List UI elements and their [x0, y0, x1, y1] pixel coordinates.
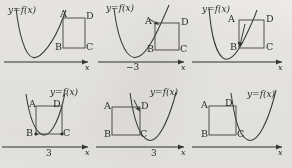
- corner-label-d: D: [266, 14, 274, 24]
- corner-label-a: A: [29, 99, 36, 109]
- x-axis-label: x: [85, 149, 90, 157]
- parabola-curve: [130, 92, 176, 140]
- corner-label-b: B: [55, 42, 62, 52]
- square-shape: [36, 106, 62, 134]
- panel-5: y=f(x) A D B C 3 x: [96, 84, 193, 168]
- corner-label-c: C: [266, 42, 273, 52]
- corner-label-b: B: [104, 129, 111, 139]
- panel-5-graphic: [96, 84, 193, 168]
- corner-label-b: B: [230, 42, 237, 52]
- square-shape: [63, 18, 85, 48]
- function-label: y=f(x): [150, 88, 178, 97]
- corner-label-d: D: [141, 101, 149, 111]
- axis-tick-label: −3: [126, 63, 139, 72]
- corner-label-a: A: [60, 9, 67, 19]
- x-axis-label: x: [278, 149, 283, 157]
- panel-6-graphic: [192, 84, 292, 168]
- panel-1: y=f(x) A D B C x: [0, 0, 97, 84]
- corner-label-b: B: [147, 44, 154, 54]
- panel-2: y=f(x) A D B C −3 x: [96, 0, 193, 84]
- corner-label-c: C: [140, 129, 147, 139]
- function-label: y=f(x): [106, 4, 134, 13]
- pointer-arrowhead: [135, 107, 140, 111]
- corner-label-c: C: [180, 44, 187, 54]
- function-label: y=f(x): [8, 6, 36, 15]
- math-figure-sheet: y=f(x) A D B C x y=f(x) A D B C −3 x: [0, 0, 292, 168]
- corner-label-a: A: [201, 100, 208, 110]
- function-label: y=f(x): [247, 90, 275, 99]
- panel-3: y=f(x) A D B C x: [192, 0, 289, 84]
- corner-label-d: D: [225, 98, 233, 108]
- corner-label-a: A: [228, 14, 235, 24]
- function-label: y=f(x): [202, 5, 230, 14]
- axis-tick-label: 3: [151, 149, 157, 158]
- x-axis-label: x: [181, 149, 186, 157]
- panel-4: y=f(x) A D B C 3 x: [0, 84, 97, 168]
- corner-label-c: C: [86, 42, 93, 52]
- function-label: y=f(x): [50, 88, 78, 97]
- corner-label-b: B: [26, 128, 33, 138]
- intersection-dot-b: [34, 132, 37, 135]
- corner-label-c: C: [63, 128, 70, 138]
- corner-label-a: A: [104, 101, 111, 111]
- panel-6: y=f(x) A D B C x: [192, 84, 289, 168]
- corner-label-d: D: [53, 99, 61, 109]
- x-axis-label: x: [85, 64, 90, 72]
- axis-tick-label: 3: [46, 149, 52, 158]
- corner-label-b: B: [201, 129, 208, 139]
- corner-label-d: D: [181, 17, 189, 27]
- square-shape: [209, 106, 236, 135]
- corner-label-d: D: [86, 11, 94, 21]
- corner-label-c: C: [237, 129, 244, 139]
- x-axis-label: x: [181, 64, 186, 72]
- x-axis-label: x: [278, 64, 283, 72]
- square-shape: [155, 23, 179, 50]
- corner-label-a: A: [145, 16, 152, 26]
